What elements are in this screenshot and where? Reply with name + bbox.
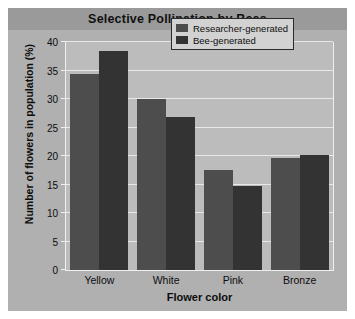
legend-swatch — [176, 24, 188, 32]
bar — [204, 170, 233, 270]
x-tick-label: Pink — [200, 274, 267, 286]
y-tick-label: 35 — [47, 65, 58, 76]
chart-figure: Selective Pollination by Bees Number of … — [8, 8, 347, 311]
chart-legend: Researcher-generatedBee-generated — [171, 18, 294, 50]
bar — [137, 99, 166, 270]
x-tick-label: Bronze — [266, 274, 333, 286]
x-axis-tick-labels: YellowWhitePinkBronze — [66, 274, 333, 286]
y-tick-label: 30 — [47, 94, 58, 105]
bar-group — [266, 42, 333, 270]
y-tick-label: 20 — [47, 151, 58, 162]
bar — [271, 158, 300, 270]
bar — [99, 51, 128, 270]
y-tick-label: 25 — [47, 122, 58, 133]
x-tick-label: Yellow — [66, 274, 133, 286]
legend-swatch — [176, 36, 188, 44]
y-tick-label: 10 — [47, 208, 58, 219]
legend-label: Bee-generated — [193, 35, 256, 46]
y-axis-label: Number of flowers in population (%) — [23, 39, 35, 229]
y-tick-label: 40 — [47, 37, 58, 48]
bar-group — [66, 42, 133, 270]
legend-item: Researcher-generated — [176, 22, 288, 34]
legend-label: Researcher-generated — [193, 23, 288, 34]
bar-groups — [66, 42, 333, 270]
y-tick-label: 5 — [52, 236, 58, 247]
y-tick-label: 15 — [47, 179, 58, 190]
plot-right-border — [333, 42, 334, 270]
legend-item: Bee-generated — [176, 34, 288, 46]
bar — [233, 186, 262, 270]
bar-group — [200, 42, 267, 270]
bar — [166, 117, 195, 270]
y-tick-label: 0 — [52, 265, 58, 276]
bar-group — [133, 42, 200, 270]
plot-area: 0510152025303540 — [66, 42, 333, 270]
x-axis-label: Flower color — [66, 291, 333, 303]
bar — [300, 155, 329, 270]
x-tick-label: White — [133, 274, 200, 286]
x-axis-line — [65, 270, 334, 271]
bar — [70, 74, 99, 270]
